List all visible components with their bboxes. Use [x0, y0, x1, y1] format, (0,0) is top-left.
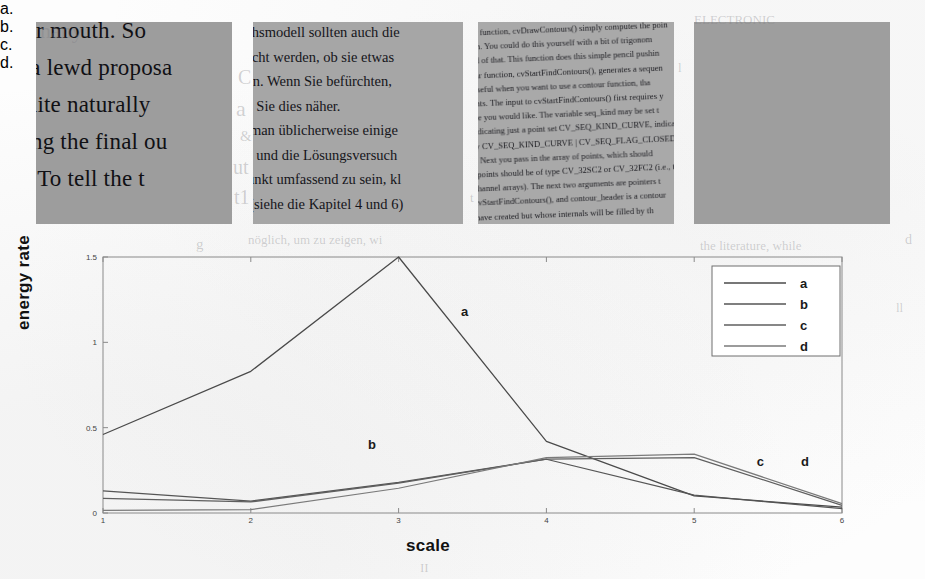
y-tick-label: 0.5: [86, 424, 98, 433]
sample-panel-d: ument of arcW "an posteriog ad" glang ah…: [694, 22, 890, 224]
energy-rate-chart: 12345600.511.5abcd: [0, 243, 925, 579]
sample-c-line: e have created but whose internals will …: [478, 205, 654, 223]
chart-inline-label-d: d: [801, 454, 809, 469]
legend-label-a: a: [800, 276, 808, 291]
sample-a-line: her mouth. So: [36, 22, 146, 44]
sample-strip: her mouth. Soe a lewd proposaquite natur…: [0, 0, 925, 248]
sample-a-line: h. To tell the t: [36, 166, 145, 192]
ghost-text-item: &: [240, 128, 252, 145]
chart-inline-label-a: a: [461, 304, 468, 319]
sample-panel-b: achsmodell sollten auch diesucht werden,…: [253, 22, 463, 224]
chart-legend-box: [712, 266, 840, 356]
sample-b-line: en Sie dies näher.: [253, 98, 340, 115]
ghost-text-item: ut: [233, 156, 249, 179]
sample-b-line: ann. Wenn Sie befürchten,: [253, 73, 392, 90]
x-tick-label: 2: [249, 516, 254, 525]
x-tick-label: 5: [692, 516, 697, 525]
y-tick-label: 0: [93, 509, 98, 518]
sample-b-line: sucht werden, ob sie etwas: [253, 49, 394, 66]
sample-panel-c: ality function, cvDrawContours() simply …: [478, 22, 674, 224]
series-line-d: [103, 454, 842, 510]
sample-image-c: ality function, cvDrawContours() simply …: [478, 22, 674, 224]
sample-image-d: ument of arcW "an posteriog ad" glang ah…: [694, 22, 890, 224]
y-tick-label: 1.5: [86, 253, 98, 262]
ghost-text-item: a: [236, 96, 246, 122]
sample-a-line: e a lewd proposa: [36, 55, 172, 81]
legend-label-b: b: [800, 297, 808, 312]
sample-image-a: her mouth. Soe a lewd proposaquite natur…: [36, 22, 232, 224]
ghost-text-item: t: [470, 190, 474, 206]
x-tick-label: 6: [840, 516, 845, 525]
chart-y-axis-label: energy rate: [14, 235, 34, 330]
sample-b-line: achsmodell sollten auch die: [253, 24, 400, 41]
x-tick-label: 1: [101, 516, 106, 525]
sample-b-line: d man üblicherweise einige: [253, 122, 398, 139]
chart-x-axis-label: scale: [406, 536, 450, 556]
sample-image-b: achsmodell sollten auch diesucht werden,…: [253, 22, 463, 224]
sample-b-line: en und die Lösungsversuch: [253, 147, 397, 164]
sample-b-line: Punkt umfassend zu sein, kl: [253, 171, 401, 188]
legend-label-d: d: [800, 339, 808, 354]
sample-a-line: eing the final ou: [36, 129, 168, 155]
x-tick-label: 4: [544, 516, 549, 525]
sample-caption-a: a.: [0, 0, 925, 18]
chart-inline-label-b: b: [368, 437, 376, 452]
y-tick-label: 1: [93, 338, 98, 347]
sample-b-line: e (siehe die Kapitel 4 und 6): [253, 196, 403, 213]
sample-a-line: quite naturally: [36, 92, 151, 118]
ghost-text-item: t1: [234, 186, 250, 209]
chart-canvas: 12345600.511.5abcd: [0, 243, 925, 579]
chart-inline-label-c: c: [757, 454, 764, 469]
x-tick-label: 3: [396, 516, 401, 525]
legend-label-c: c: [800, 318, 807, 333]
sample-panel-a: her mouth. Soe a lewd proposaquite natur…: [36, 22, 232, 224]
